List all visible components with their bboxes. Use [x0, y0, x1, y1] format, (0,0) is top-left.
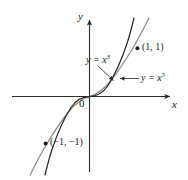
- leader-line-cubic: [98, 66, 114, 81]
- curve-label-cubic-exponent: 3: [107, 53, 110, 60]
- curve-label-cubic-base: y = x: [86, 54, 107, 65]
- point-marker-upper: [135, 46, 139, 50]
- graph-figure: y x 0 (1, 1) (−1, −1) y = x3 y = x5: [0, 0, 188, 180]
- curve-label-quintic-base: y = x: [141, 72, 162, 83]
- point-label-lower: (−1, −1): [50, 137, 83, 147]
- graph-canvas: [0, 0, 188, 180]
- x-axis-label: x: [172, 99, 177, 110]
- curve-label-quintic-exponent: 5: [162, 71, 165, 78]
- curve-label-quintic: y = x5: [141, 73, 165, 83]
- y-axis-label: y: [78, 11, 83, 22]
- curve-label-cubic: y = x3: [86, 55, 110, 65]
- point-marker-lower: [44, 142, 48, 146]
- point-label-upper: (1, 1): [142, 42, 164, 52]
- origin-label: 0: [79, 98, 85, 109]
